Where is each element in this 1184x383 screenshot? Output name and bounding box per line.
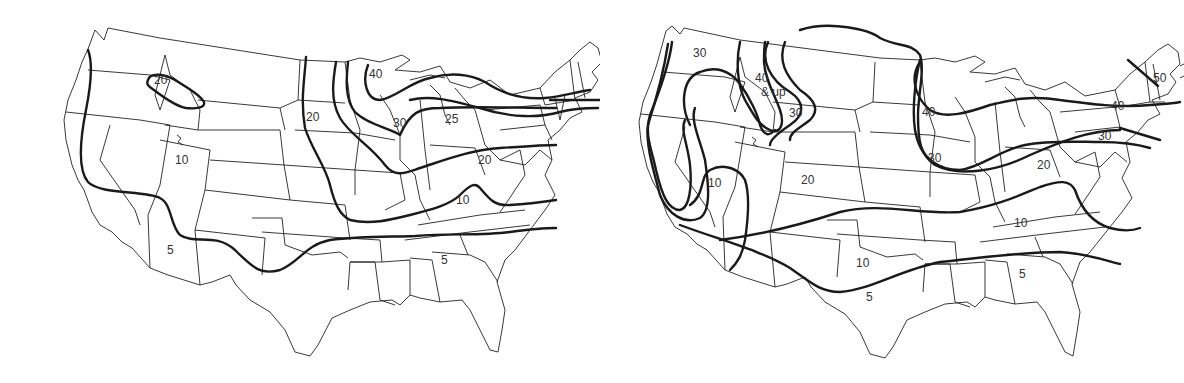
contour-label: & up xyxy=(761,86,786,98)
contour-label: 30 xyxy=(1098,130,1111,142)
isoline-map-left: 202040302520101055 xyxy=(0,0,600,383)
contour-label: 30 xyxy=(393,117,406,129)
contour-label: 20 xyxy=(154,74,167,86)
contour-label: 50 xyxy=(1153,72,1166,84)
contour-label: 10 xyxy=(708,177,721,189)
contour-label: 5 xyxy=(167,244,174,256)
contour-label: 10 xyxy=(1014,217,1027,229)
us-states-outline-right xyxy=(600,0,1184,383)
contour-label: 30 xyxy=(789,107,802,119)
contour-label: 20 xyxy=(1037,159,1050,171)
contour-label: 10 xyxy=(856,257,869,269)
contour-label: 5 xyxy=(866,291,873,303)
contour-label: 20 xyxy=(306,111,319,123)
contour-label: 20 xyxy=(478,154,491,166)
contour-label: 40 xyxy=(922,106,935,118)
contour-label: 5 xyxy=(441,254,448,266)
isolines-right xyxy=(647,26,1180,292)
contour-label: 20 xyxy=(801,174,814,186)
us-states-outline-left xyxy=(0,0,600,383)
contour-label: 5 xyxy=(1019,268,1026,280)
contour-label: 10 xyxy=(456,194,469,206)
contour-label: 30 xyxy=(693,47,706,59)
isoline-map-right: 3040& up304030204030501020101055 xyxy=(600,0,1184,383)
contour-label: 40 xyxy=(369,68,382,80)
contour-label: 40 xyxy=(755,72,768,84)
contour-label: 30 xyxy=(928,152,941,164)
contour-label: 25 xyxy=(445,113,458,125)
contour-label: 40 xyxy=(1111,100,1124,112)
contour-label: 10 xyxy=(175,154,188,166)
